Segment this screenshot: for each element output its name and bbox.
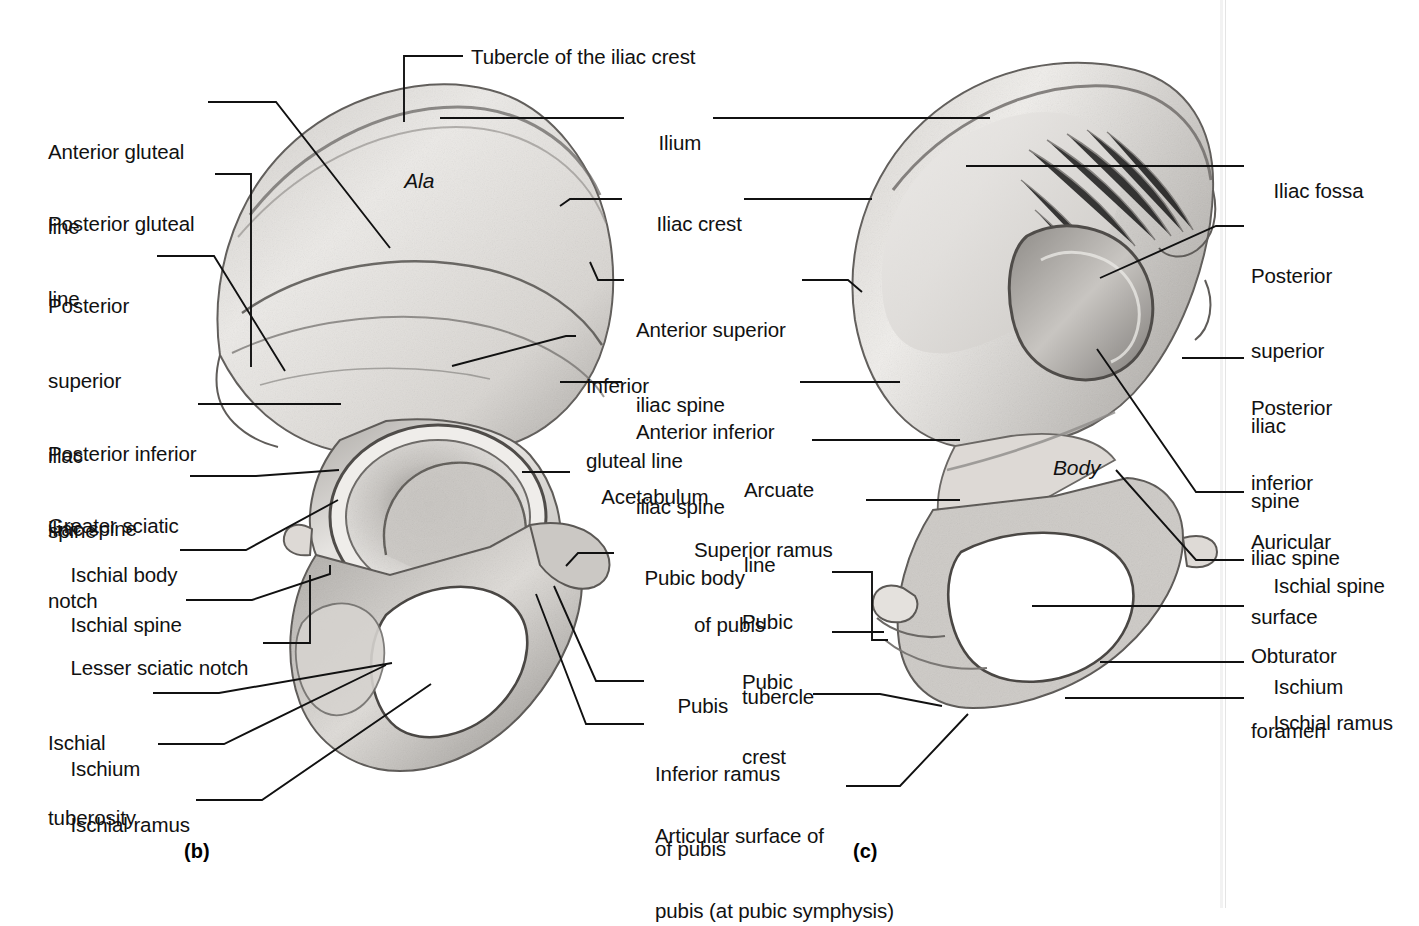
label-ischial-ramus-c: Ischial ramus bbox=[1251, 685, 1393, 735]
label-ischium: Ischium bbox=[48, 731, 140, 781]
label-body: Body bbox=[1030, 430, 1100, 480]
label-tubercle-of-the-iliac-crest: Tubercle of the iliac crest bbox=[471, 44, 695, 69]
hip-bone-illustration-c bbox=[815, 40, 1235, 740]
label-ischial-ramus: Ischial ramus bbox=[48, 787, 190, 837]
label-acetabulum: Acetabulum bbox=[580, 459, 709, 509]
figure-caption-c: (c) bbox=[853, 840, 877, 863]
label-ischial-spine-c: Ischial spine bbox=[1251, 548, 1385, 598]
figure-caption-b: (b) bbox=[184, 840, 210, 863]
label-ilium: Ilium bbox=[636, 105, 701, 155]
label-ala: Ala bbox=[382, 143, 434, 193]
label-lesser-sciatic-notch: Lesser sciatic notch bbox=[48, 630, 248, 680]
label-iliac-fossa: Iliac fossa bbox=[1251, 153, 1363, 203]
label-iliac-crest: Iliac crest bbox=[634, 186, 742, 236]
label-ischial-body: Ischial body bbox=[48, 537, 177, 587]
